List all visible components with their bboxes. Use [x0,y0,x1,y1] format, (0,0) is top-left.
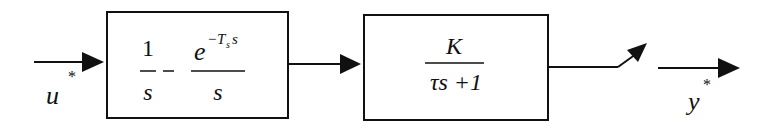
svg-text:−: − [208,31,216,47]
svg-text:s: s [143,79,152,105]
svg-text:1: 1 [142,35,154,61]
output-arrow [658,58,740,78]
svg-text:*: * [703,76,711,93]
svg-text:e: e [194,37,206,66]
svg-text:s: s [226,39,230,50]
connector-arrow [288,54,361,74]
output-label: y * [685,76,711,116]
svg-text:u: u [46,81,59,110]
plant-block [364,15,548,120]
input-label: u * [46,68,76,110]
svg-text:s: s [213,79,222,105]
sampler-switch-icon [618,43,647,67]
block-diagram: u * 1 s e − T s s s K τs +1 y [0,0,775,128]
plant-transfer-function: K τs +1 [425,33,484,95]
svg-text:s: s [232,31,238,47]
svg-text:K: K [445,33,464,59]
svg-text:y: y [685,87,700,116]
zoh-transfer-function: 1 s e − T s s s [140,31,245,105]
svg-text:τs +1: τs +1 [430,69,482,95]
svg-text:*: * [68,68,76,85]
